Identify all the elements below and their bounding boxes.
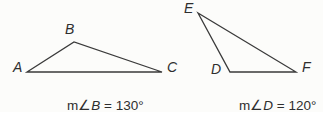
geometry-figure: A B C E D F m∠B = 130° m∠D = 120° <box>0 0 323 112</box>
angle-statement-b: m∠B = 130° <box>52 85 144 112</box>
vertex-label-b: B <box>65 22 74 36</box>
angle-value: = 120° <box>273 98 316 113</box>
vertex-label-f: F <box>302 60 311 74</box>
vertex-label-a: A <box>13 60 22 74</box>
angle-measure-prefix: m∠ <box>239 98 263 113</box>
angle-measure-prefix: m∠ <box>67 98 91 113</box>
triangle-abc-outline <box>27 42 162 72</box>
angle-vertex-letter: D <box>263 98 273 113</box>
angle-value: = 130° <box>100 98 143 113</box>
vertex-label-e: E <box>184 1 193 15</box>
angle-vertex-letter: B <box>91 98 100 113</box>
angle-statement-d: m∠D = 120° <box>224 85 316 112</box>
vertex-label-d: D <box>211 62 221 76</box>
vertex-label-c: C <box>167 60 177 74</box>
